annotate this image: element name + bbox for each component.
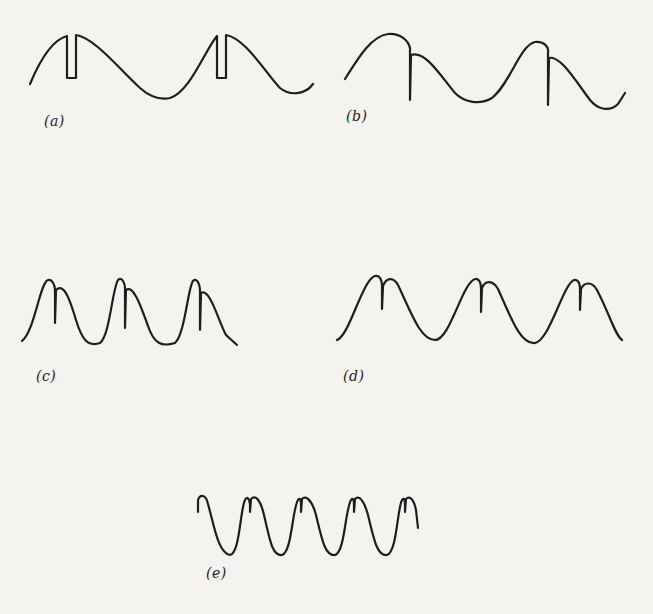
waveform-figure: (a) (b) (c) (d) (e) — [0, 0, 653, 614]
panel-label-d: (d) — [343, 368, 364, 384]
panel-label-c: (c) — [36, 368, 56, 384]
panel-label-a: (a) — [44, 113, 65, 129]
waveform-a — [30, 35, 313, 99]
panel-label-b: (b) — [346, 108, 367, 124]
waveform-drawings — [0, 0, 653, 614]
panel-label-e: (e) — [206, 565, 227, 581]
waveform-d — [337, 276, 622, 343]
waveform-c — [22, 279, 237, 345]
waveform-b — [345, 34, 625, 109]
waveform-e — [198, 496, 418, 555]
